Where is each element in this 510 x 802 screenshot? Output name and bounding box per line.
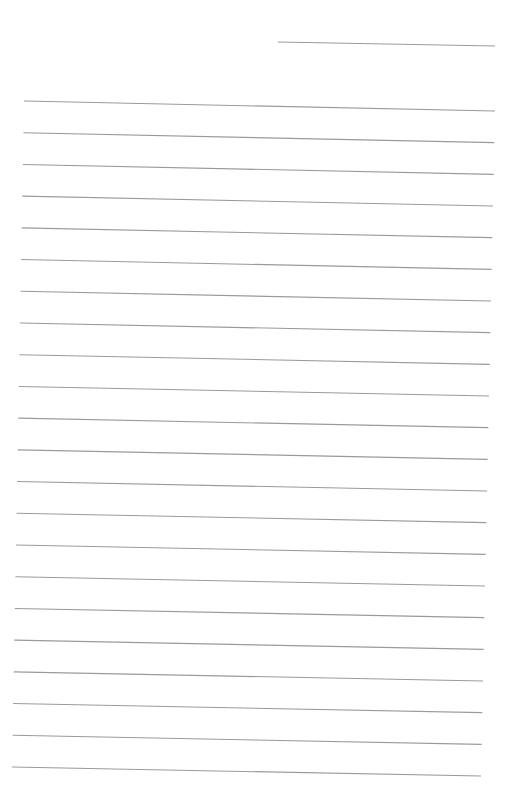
lined-paper-page bbox=[0, 0, 510, 802]
ruled-line bbox=[21, 260, 492, 270]
ruled-line bbox=[23, 164, 494, 174]
ruled-line bbox=[13, 704, 482, 713]
ruled-line bbox=[16, 545, 486, 554]
ruled-line bbox=[15, 577, 485, 586]
ruled-line bbox=[14, 640, 483, 649]
ruled-lines bbox=[0, 0, 510, 802]
ruled-line bbox=[22, 228, 493, 238]
ruled-line bbox=[21, 291, 491, 301]
ruled-line bbox=[12, 767, 481, 776]
ruled-line bbox=[15, 608, 484, 617]
ruled-line bbox=[19, 355, 489, 365]
ruled-line bbox=[18, 418, 488, 428]
ruled-line bbox=[23, 133, 494, 143]
ruled-line bbox=[14, 672, 483, 681]
ruled-line bbox=[24, 101, 495, 111]
ruled-line bbox=[13, 735, 482, 744]
ruled-line bbox=[22, 196, 493, 206]
ruled-line bbox=[17, 482, 487, 491]
ruled-line bbox=[20, 323, 490, 333]
ruled-line bbox=[17, 513, 487, 522]
header-line bbox=[278, 42, 495, 46]
ruled-line bbox=[19, 386, 489, 396]
ruled-line bbox=[18, 450, 488, 459]
